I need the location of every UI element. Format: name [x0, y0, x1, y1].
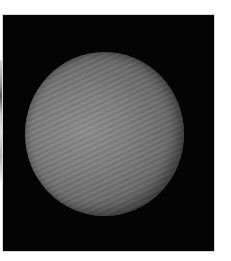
- planet-sphere: [25, 52, 184, 216]
- planet-photo: gray banded sphere (planetary body) on b…: [3, 15, 214, 251]
- image-subject: gray banded sphere (planetary body) on b…: [3, 15, 4, 16]
- limb-shading: [25, 52, 184, 216]
